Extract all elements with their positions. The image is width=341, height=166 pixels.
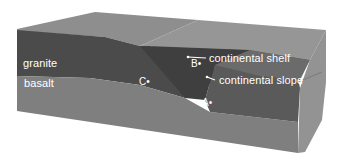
continental-slope-label: continental slope xyxy=(219,75,303,86)
granite-label: granite xyxy=(23,58,57,69)
point-b-label: B• xyxy=(191,59,201,69)
continental-slope-pointer-head xyxy=(206,76,209,79)
continental-shelf-label: continental shelf xyxy=(209,53,290,64)
continental-shelf-pointer-head xyxy=(187,56,190,59)
point-a-label: A• xyxy=(202,98,212,108)
point-c-label: C• xyxy=(139,77,150,87)
basalt-label: basalt xyxy=(24,78,54,89)
block-diagram: granite basalt continental shelf contine… xyxy=(0,0,341,166)
